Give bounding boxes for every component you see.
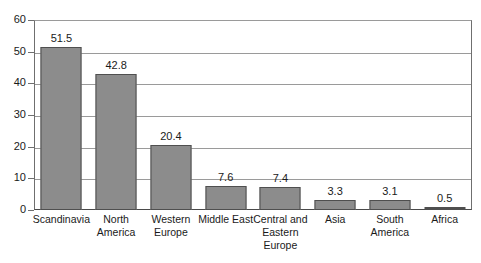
x-axis-category-labels: ScandinaviaNorthAmericaWesternEuropeMidd… — [34, 213, 472, 261]
bar-slot: 51.5 — [34, 20, 89, 210]
bar-value-label: 42.8 — [105, 60, 126, 71]
y-tick-0 — [28, 210, 34, 211]
bar[interactable] — [41, 47, 82, 210]
category-label-africa: Africa — [411, 213, 478, 226]
bar-value-label: 7.4 — [273, 173, 288, 184]
bar-slot: 3.1 — [363, 20, 418, 210]
category-label-line: America — [357, 226, 424, 239]
bar-value-label: 3.3 — [327, 186, 342, 197]
bar-value-label: 7.6 — [218, 172, 233, 183]
bar-value-label: 3.1 — [382, 186, 397, 197]
bar-value-label: 51.5 — [51, 33, 72, 44]
y-tick-label: 20 — [0, 141, 26, 152]
y-tick-label: 60 — [0, 14, 26, 25]
bar-value-label: 20.4 — [160, 131, 181, 142]
category-label-line: Europe — [247, 239, 314, 252]
y-tick-label: 30 — [0, 109, 26, 120]
bar-slot: 7.6 — [198, 20, 253, 210]
bar-slot: 7.4 — [253, 20, 308, 210]
bar-slot: 3.3 — [308, 20, 363, 210]
bar[interactable] — [150, 145, 191, 210]
bar[interactable] — [315, 200, 356, 210]
bar[interactable] — [424, 207, 465, 210]
bar[interactable] — [260, 187, 301, 210]
category-label-line: Africa — [411, 213, 478, 226]
bar-slot: 20.4 — [144, 20, 199, 210]
bar[interactable] — [205, 186, 246, 210]
y-tick-label: 40 — [0, 77, 26, 88]
y-tick-label: 50 — [0, 46, 26, 57]
category-label-line: Europe — [138, 226, 205, 239]
category-label-line: Eastern — [247, 226, 314, 239]
y-tick-label: 0 — [0, 204, 26, 215]
bar-slot: 42.8 — [89, 20, 144, 210]
bar-value-label: 0.5 — [437, 193, 452, 204]
y-tick-label: 10 — [0, 172, 26, 183]
bars-layer: 51.542.820.47.67.43.33.10.5 — [34, 20, 472, 210]
bar[interactable] — [96, 74, 137, 210]
bar-slot: 0.5 — [417, 20, 472, 210]
bar[interactable] — [369, 200, 410, 210]
bar-chart: 0102030405060 51.542.820.47.67.43.33.10.… — [0, 0, 481, 263]
